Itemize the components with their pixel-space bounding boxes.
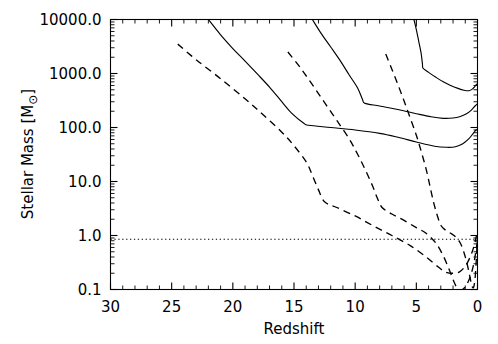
y-tick-label: 100.0 (59, 119, 102, 137)
x-axis-tick-labels: 302520151050 (101, 298, 482, 316)
solid-curve-1 (208, 20, 477, 148)
y-axis-label-prefix: Stellar Mass [M (19, 105, 37, 219)
y-axis-label: Stellar Mass [M⊙] (19, 89, 40, 219)
y-tick-label: 10.0 (68, 173, 101, 191)
y-axis-label-suffix: ] (19, 89, 37, 95)
x-tick-label: 10 (346, 298, 365, 316)
figure-panel: 302520151050 0.11.010.0100.01000.010000.… (0, 0, 498, 344)
x-tick-label: 0 (473, 298, 483, 316)
y-axis-label-text: Stellar Mass [M⊙] (19, 89, 40, 219)
dashed-curve-2 (288, 52, 478, 290)
dashed-curve-3 (386, 54, 478, 288)
x-tick-label: 30 (101, 298, 120, 316)
y-tick-label: 10000.0 (39, 11, 101, 29)
y-tick-label: 1.0 (78, 227, 102, 245)
x-axis-label: Redshift (264, 320, 325, 338)
solid-curve-2 (312, 20, 477, 119)
x-tick-label: 25 (162, 298, 181, 316)
x-tick-label: 15 (284, 298, 303, 316)
y-axis-tick-labels: 0.11.010.0100.01000.010000.0 (39, 11, 101, 299)
stellar-mass-vs-redshift-plot: 302520151050 0.11.010.0100.01000.010000.… (0, 0, 498, 344)
y-tick-label: 0.1 (78, 281, 102, 299)
y-axis-label-subscript: ⊙ (26, 95, 40, 105)
data-curves (111, 20, 478, 291)
x-tick-label: 20 (223, 298, 242, 316)
x-tick-label: 5 (412, 298, 422, 316)
solid-curve-3 (414, 20, 478, 91)
y-tick-label: 1000.0 (49, 65, 102, 83)
